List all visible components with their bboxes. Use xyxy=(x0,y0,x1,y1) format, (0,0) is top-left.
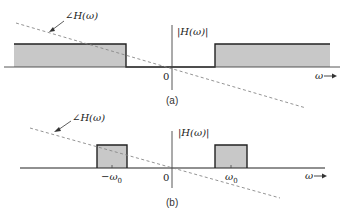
pos-omega0-sub: 0 xyxy=(233,177,237,185)
magnitude-label-a: |H(ω)| xyxy=(177,27,208,37)
arrowhead-icon xyxy=(49,27,55,32)
caption-a: (a) xyxy=(166,96,178,106)
arrow-right-icon xyxy=(322,174,327,179)
pos-omega0-text: ω xyxy=(225,171,233,182)
passband-right-b xyxy=(215,145,247,168)
phase-pointer-b xyxy=(58,121,71,130)
neg-omega0-label: −ω0 xyxy=(101,172,122,185)
origin-label-b: 0 xyxy=(163,173,169,183)
neg-omega0-sub: 0 xyxy=(118,177,122,185)
omega-axis-label-a: ω xyxy=(315,71,323,81)
arrow-right-icon xyxy=(332,74,337,79)
panel-b xyxy=(20,121,327,198)
passband-left-a xyxy=(14,44,126,67)
origin-label-a: 0 xyxy=(163,72,169,82)
phase-label-a: ∠H(ω) xyxy=(65,11,98,21)
caption-b: (b) xyxy=(166,198,178,208)
magnitude-label-b: |H(ω)| xyxy=(178,128,209,138)
omega-axis-label-b: ω xyxy=(305,171,313,181)
phase-label-b: ∠H(ω) xyxy=(72,113,105,123)
pos-omega0-label: ω0 xyxy=(225,172,238,185)
neg-omega0-text: −ω xyxy=(101,171,118,182)
passband-right-a xyxy=(215,44,330,67)
diagram-canvas xyxy=(0,0,349,219)
arrowhead-icon xyxy=(54,127,61,132)
